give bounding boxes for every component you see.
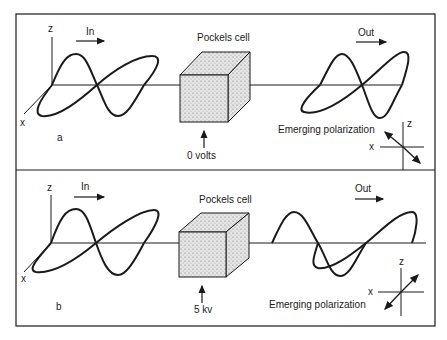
axis-x-label-a: x	[20, 118, 25, 128]
panel-a	[24, 37, 424, 170]
out-label-b: Out	[355, 184, 371, 194]
panel-label-a: a	[57, 133, 63, 143]
axis-z-label-a: z	[48, 24, 53, 34]
panel-label-b: b	[56, 302, 62, 312]
pol-axis-z-label-b: z	[399, 257, 404, 267]
in-label-b: In	[81, 182, 89, 192]
out-label-a: Out	[358, 28, 374, 38]
polarization-arrow-a	[403, 147, 420, 163]
in-label-a: In	[86, 27, 94, 37]
axis-x-label-b: x	[21, 274, 26, 284]
pockels-cell-label-a: Pockels cell	[197, 33, 250, 43]
polarization-arrow-b	[385, 292, 401, 309]
pockels-cell-a	[180, 75, 228, 122]
pol-axis-z-label-a: z	[407, 119, 412, 129]
pol-axis-x-label-b: x	[368, 287, 373, 297]
emerging-polarization-label-b: Emerging polarization	[269, 300, 366, 310]
voltage-label-a: 0 volts	[187, 151, 216, 161]
emerging-polarization-label-a: Emerging polarization	[278, 125, 375, 135]
pockels-cell-label-b: Pockels cell	[199, 195, 252, 205]
panel-b	[24, 195, 426, 316]
voltage-label-b: 5 kv	[194, 305, 212, 315]
pockels-cell-b	[179, 232, 226, 277]
pockels-cell-diagram	[0, 0, 447, 340]
pol-axis-x-label-a: x	[369, 142, 374, 152]
output-wave-1-b	[272, 212, 366, 276]
axis-z-label-b: z	[47, 183, 52, 193]
